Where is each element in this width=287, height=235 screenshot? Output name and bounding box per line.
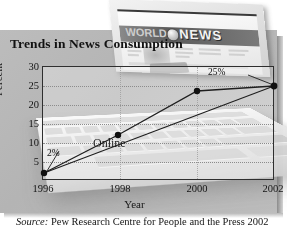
plot-area: Online [42, 66, 274, 180]
annotation-25-percent: 25% [208, 67, 225, 77]
data-point-2000 [194, 88, 200, 94]
source-text: Pew Research Centre for People and the P… [51, 216, 269, 227]
series-lines [43, 67, 275, 181]
y-tick-10: 10 [29, 137, 40, 148]
data-point-1998 [115, 132, 121, 138]
source-prefix: Source: [16, 216, 48, 227]
y-axis-label: Percent [0, 63, 4, 96]
x-axis-label-text: Year [124, 198, 144, 210]
x-axis-label: Year [0, 198, 287, 210]
x-axis-ticks: 1996 1998 2000 2002 [42, 183, 274, 197]
y-tick-15: 15 [29, 118, 40, 129]
source-note: Source: Pew Research Centre for People a… [16, 216, 268, 227]
data-point-1996 [41, 170, 47, 176]
annotation-leader-25pct [248, 75, 271, 84]
x-tick-1996: 1996 [33, 183, 54, 194]
x-tick-2000: 2000 [187, 183, 208, 194]
y-tick-25: 25 [29, 80, 40, 91]
annotation-2-percent: 2% [47, 148, 60, 158]
chart-title: Trends in News Consumption [10, 36, 183, 52]
figure-root: WORLD NEWS [0, 0, 287, 235]
reference-trend-line [44, 86, 274, 173]
x-tick-1998: 1998 [110, 183, 131, 194]
y-axis-ticks: 30 25 20 15 10 5 [12, 66, 39, 180]
x-tick-2002: 2002 [263, 183, 284, 194]
y-tick-30: 30 [29, 61, 40, 72]
y-tick-20: 20 [29, 99, 40, 110]
y-tick-5: 5 [34, 156, 39, 167]
data-point-2002 [271, 83, 278, 90]
